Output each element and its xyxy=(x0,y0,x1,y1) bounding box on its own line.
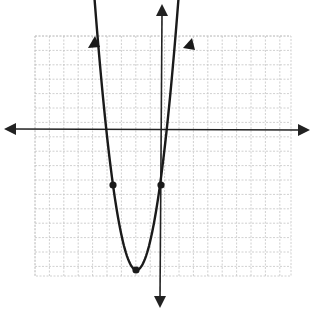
y-axis-down-arrow-icon xyxy=(154,296,166,308)
coordinate-plane xyxy=(0,0,313,311)
x-axis-right-arrow-icon xyxy=(298,124,310,136)
x-axis-left-arrow-icon xyxy=(4,123,16,135)
y-axis-up-arrow-icon xyxy=(156,4,168,16)
point-right xyxy=(157,181,164,188)
point-left xyxy=(109,181,116,188)
graph-container xyxy=(0,0,313,311)
vertex-point xyxy=(132,266,139,273)
x-axis xyxy=(14,129,300,130)
y-axis xyxy=(160,14,162,298)
parabola-curve xyxy=(94,0,192,270)
